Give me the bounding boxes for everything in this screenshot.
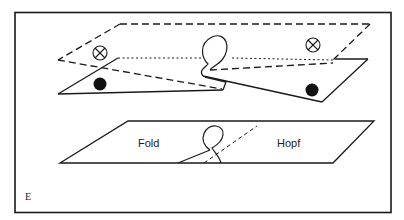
stable-marker-left [94, 78, 107, 91]
limit-cycle-loop-plane [203, 126, 223, 163]
fold-label: Fold [138, 137, 159, 149]
lower-right-sheet [203, 59, 368, 102]
lower-left-sheet [58, 58, 226, 94]
fold-curve [178, 150, 210, 163]
unstable-marker-left [93, 46, 107, 60]
hopf-label: Hopf [277, 137, 301, 149]
hidden-fold-line [118, 58, 333, 60]
parameter-plane [60, 121, 374, 163]
hopf-curve [204, 126, 257, 163]
panel-letter: E [25, 191, 31, 202]
bifurcation-diagram: Fold Hopf E [0, 0, 404, 220]
unstable-marker-right [306, 38, 320, 52]
figure-frame [15, 13, 391, 213]
stable-marker-right [306, 84, 319, 97]
